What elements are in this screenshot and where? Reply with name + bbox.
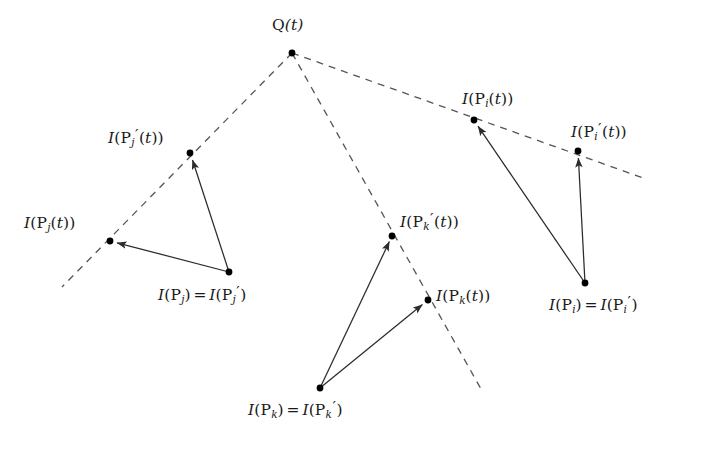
label-i-source: I(Pi)=I(Pi′) <box>549 295 638 315</box>
arrow-j-source-to-j-image-prime <box>193 160 230 272</box>
sub-k-1: k <box>423 220 429 232</box>
point-q <box>289 50 296 57</box>
label-j-image: I(Pj(t)) <box>24 216 75 232</box>
figure-canvas: Q(t) I(Pj′(t)) I(Pj(t)) I(Pj)=I(Pj′) I(P… <box>0 0 704 453</box>
label-k-image-prime: I(Pk′(t)) <box>400 212 459 232</box>
arrow-k-source-to-k-image-prime <box>320 242 389 389</box>
point-j-image-prime <box>187 150 194 157</box>
point-k-image-prime <box>389 233 396 240</box>
ray-i <box>292 53 646 179</box>
ray-j <box>62 53 292 287</box>
label-i-image: I(Pi(t)) <box>462 92 513 108</box>
label-k-source: I(Pk)=I(Pk′) <box>248 400 343 420</box>
point-i-source <box>582 280 589 287</box>
arrow-i-source-to-i-image-prime <box>578 158 585 283</box>
point-k-image <box>425 297 432 304</box>
label-q-base: Q <box>272 16 285 34</box>
label-i-image-prime: I(Pi′(t)) <box>571 122 627 142</box>
vertex-points <box>107 50 589 392</box>
label-q: Q(t) <box>272 18 303 34</box>
arrow-k-source-to-k-image <box>320 305 422 388</box>
label-k-image: I(Pk(t)) <box>436 289 490 305</box>
arrow-i-source-to-i-image <box>478 126 585 283</box>
label-q-arg: (t) <box>285 16 304 34</box>
label-j-image-prime: I(Pj′(t)) <box>108 128 164 148</box>
point-j-source <box>226 269 233 276</box>
diagram-svg <box>0 0 704 453</box>
dashed-rays <box>62 53 646 389</box>
arrow-j-source-to-j-image <box>117 243 229 272</box>
sub-j-1: j <box>131 136 134 148</box>
point-k-source <box>317 385 324 392</box>
mapping-arrows <box>117 126 585 388</box>
point-i-image <box>471 117 478 124</box>
point-j-image <box>107 238 114 245</box>
point-i-image-prime <box>575 148 582 155</box>
label-j-source: I(Pj)=I(Pj′) <box>158 285 246 305</box>
